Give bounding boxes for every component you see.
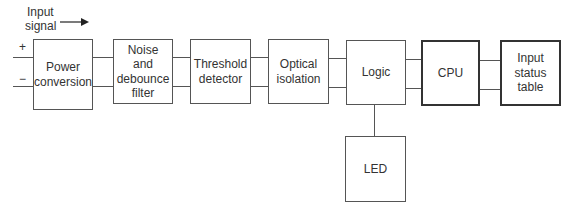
threshold-detector-block: Threshold detector — [190, 39, 251, 104]
connector-power-noise-top — [93, 57, 113, 58]
signal-direction-arrow-icon — [60, 17, 90, 27]
connector-optical-logic-top — [329, 58, 346, 59]
cpu-label: CPU — [438, 66, 463, 81]
connector-logic-led — [374, 105, 375, 136]
logic-block: Logic — [346, 40, 406, 105]
led-block: LED — [345, 136, 406, 202]
power-conversion-label: Power conversion — [34, 60, 92, 89]
connector-threshold-optical-bottom — [251, 86, 268, 87]
connector-threshold-optical-top — [251, 57, 268, 58]
input-status-table-block: Input status table — [500, 40, 561, 106]
connector-logic-cpu-bottom — [406, 88, 421, 89]
input-status-table-label: Input status table — [514, 51, 546, 95]
threshold-detector-label: Threshold detector — [194, 57, 247, 86]
connector-noise-threshold-bottom — [173, 86, 190, 87]
connector-optical-logic-bottom — [329, 87, 346, 88]
input-signal-label-line1: Input — [27, 5, 54, 19]
connector-cpu-status-top — [480, 60, 500, 61]
connector-logic-cpu-top — [406, 59, 421, 60]
connector-cpu-status-bottom — [480, 89, 500, 90]
input-wire-minus — [13, 86, 33, 87]
noise-debounce-filter-label: Noise and debounce filter — [117, 43, 170, 101]
power-conversion-block: Power conversion — [33, 39, 93, 110]
noise-debounce-filter-block: Noise and debounce filter — [113, 39, 173, 104]
input-wire-plus — [13, 57, 33, 58]
input-signal-label-line2: signal — [25, 19, 56, 33]
optical-isolation-block: Optical isolation — [268, 39, 329, 104]
cpu-block: CPU — [421, 40, 480, 106]
connector-noise-threshold-top — [173, 57, 190, 58]
led-label: LED — [364, 162, 387, 177]
plus-terminal-sign: + — [19, 40, 26, 54]
connector-power-noise-bottom — [93, 86, 113, 87]
optical-isolation-label: Optical isolation — [276, 57, 320, 86]
logic-label: Logic — [362, 65, 391, 80]
minus-terminal-sign: − — [19, 72, 26, 86]
